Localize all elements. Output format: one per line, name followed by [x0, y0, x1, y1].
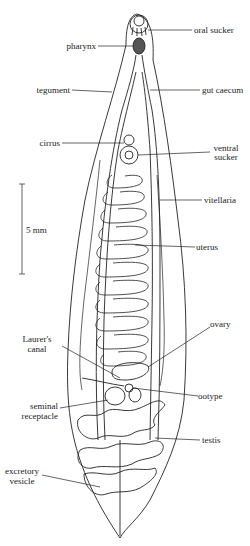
vitellaria-right — [157, 175, 164, 386]
label-excretory-vesicle-line2: vesicle — [0, 477, 44, 486]
ootype — [125, 384, 133, 392]
label-gut-caecum: gut caecum — [202, 86, 243, 95]
label-ootype: ootype — [198, 392, 223, 401]
label-oral-sucker: oral sucker — [194, 26, 234, 35]
label-laurers-canal-line2: canal — [14, 345, 60, 354]
label-tegument: tegument — [32, 86, 70, 95]
seminal-receptacle — [105, 387, 125, 405]
label-scale: 5 mm — [26, 226, 47, 235]
label-pharynx: pharynx — [66, 42, 96, 51]
label-excretory-vesicle-line1: excretory — [0, 467, 44, 476]
testis-upper — [78, 401, 165, 439]
pharynx — [133, 38, 145, 54]
label-seminal-receptacle-line1: seminal — [8, 402, 58, 411]
label-cirrus: cirrus — [30, 139, 60, 148]
label-vitellaria: vitellaria — [204, 196, 236, 205]
label-laurers-canal-line1: Laurer's — [14, 335, 60, 344]
label-testis: testis — [202, 436, 221, 445]
label-seminal-receptacle-line2: receptacle — [8, 412, 58, 421]
label-ventral-sucker-line2: sucker — [210, 153, 242, 162]
fluke-diagram — [0, 0, 250, 546]
ventral-sucker — [120, 146, 138, 164]
label-ovary: ovary — [210, 320, 231, 329]
label-uterus: uterus — [196, 243, 218, 252]
testis-middle — [78, 441, 163, 468]
vitellaria-left — [80, 160, 100, 390]
